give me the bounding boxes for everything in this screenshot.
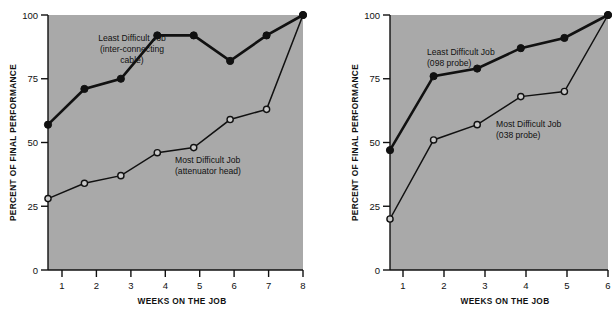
right-annot-least-line2: (098 probe)	[427, 58, 472, 68]
data-point	[387, 216, 393, 222]
left-y-ticks	[41, 15, 48, 270]
left-annotation-most-difficult: Most Difficult Job (attenuator head)	[175, 155, 241, 176]
right-ytick-50: 50	[369, 137, 380, 148]
data-point	[45, 196, 51, 202]
data-point	[431, 137, 437, 143]
data-point	[227, 57, 234, 64]
right-annot-most-line1: Most Difficult Job	[496, 119, 561, 129]
right-xtick-1: 1	[400, 280, 405, 291]
right-annot-least-line1: Least Difficult Job	[427, 47, 495, 57]
right-chart-svg: 0 25 50 75 100 PERCENT OF FINAL PERFORMA…	[305, 0, 615, 310]
right-xtick-4: 4	[523, 280, 528, 291]
right-x-ticks	[403, 270, 608, 277]
left-annot-most-line1: Most Difficult Job	[175, 155, 240, 165]
left-xtick-1: 1	[59, 280, 64, 291]
right-y-axis-title: PERCENT OF FINAL PERFORMANCE	[350, 64, 360, 221]
right-ytick-25: 25	[369, 201, 380, 212]
left-x-ticks	[62, 270, 303, 277]
left-ytick-25: 25	[27, 201, 38, 212]
left-plot-background	[48, 15, 303, 270]
data-point	[190, 32, 197, 39]
right-ytick-0: 0	[375, 265, 380, 276]
data-point	[561, 34, 568, 41]
chart-panel-right: 0 25 50 75 100 PERCENT OF FINAL PERFORMA…	[305, 0, 615, 310]
left-xtick-7: 7	[266, 280, 271, 291]
left-annot-most-line2: (attenuator head)	[175, 166, 241, 176]
right-y-ticks	[383, 15, 390, 270]
left-ytick-75: 75	[27, 73, 38, 84]
data-point	[604, 11, 611, 18]
data-point	[263, 106, 269, 112]
left-chart-svg: 0 25 50 75 100 PERCENT OF FINAL PERFORMA…	[0, 0, 310, 310]
figure-two-line-charts: 0 25 50 75 100 PERCENT OF FINAL PERFORMA…	[0, 0, 615, 310]
left-ytick-100: 100	[22, 10, 38, 21]
right-xtick-5: 5	[564, 280, 569, 291]
right-annot-most-line2: (038 probe)	[496, 130, 541, 140]
data-point	[191, 145, 197, 151]
data-point	[227, 116, 233, 122]
data-point	[44, 121, 51, 128]
chart-panel-left: 0 25 50 75 100 PERCENT OF FINAL PERFORMA…	[0, 0, 310, 310]
left-xtick-2: 2	[94, 280, 99, 291]
data-point	[81, 85, 88, 92]
left-annot-least-line2: (inter-connecting	[100, 44, 164, 54]
data-point	[81, 180, 87, 186]
data-point	[518, 94, 524, 100]
left-xtick-5: 5	[197, 280, 202, 291]
left-xtick-3: 3	[128, 280, 133, 291]
data-point	[517, 45, 524, 52]
right-plot-background	[390, 15, 608, 270]
left-xtick-6: 6	[231, 280, 236, 291]
data-point	[474, 65, 481, 72]
left-y-axis-title: PERCENT OF FINAL PERFORMANCE	[8, 64, 18, 221]
data-point	[117, 75, 124, 82]
data-point	[474, 122, 480, 128]
right-xtick-6: 6	[605, 280, 610, 291]
right-xtick-3: 3	[482, 280, 487, 291]
data-point	[263, 32, 270, 39]
right-xtick-2: 2	[441, 280, 446, 291]
data-point	[561, 88, 567, 94]
left-ytick-0: 0	[33, 265, 38, 276]
data-point	[386, 147, 393, 154]
right-x-axis-title: WEEKS ON THE JOB	[460, 296, 549, 306]
left-xtick-4: 4	[163, 280, 168, 291]
left-annot-least-line3: cable)	[120, 55, 144, 65]
data-point	[118, 173, 124, 179]
right-ytick-100: 100	[364, 10, 380, 21]
left-x-axis-title: WEEKS ON THE JOB	[137, 296, 226, 306]
data-point	[430, 73, 437, 80]
left-ytick-50: 50	[27, 137, 38, 148]
left-annot-least-line1: Least Difficult Job	[98, 33, 166, 43]
data-point	[154, 150, 160, 156]
right-ytick-75: 75	[369, 73, 380, 84]
